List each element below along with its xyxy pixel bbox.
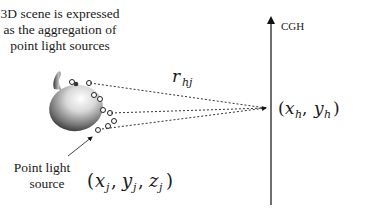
point-source-label-line-2: source	[29, 176, 64, 191]
svg-text:): )	[333, 98, 340, 118]
ray-line	[90, 83, 266, 108]
scene-caption: 3D scene is expressed as the aggregation…	[1, 6, 120, 53]
svg-text:x: x	[285, 98, 295, 118]
svg-text:y: y	[313, 98, 324, 118]
hologram-point-coords: ( x h , y h )	[278, 98, 340, 121]
distance-subscript: hj	[182, 76, 193, 89]
distance-label: r hj	[172, 66, 193, 89]
source-pointer-arrow	[68, 137, 92, 156]
svg-text:,: ,	[111, 170, 117, 191]
svg-text:z: z	[148, 170, 159, 191]
point-source-label-line-1: Point light	[14, 160, 71, 175]
svg-text:h: h	[324, 108, 331, 121]
teapot-object-icon	[45, 71, 106, 135]
point-source-label: Point light source	[14, 160, 71, 191]
point-source	[112, 119, 117, 124]
point-source-coords: ( x j , y j , z j )	[87, 170, 173, 194]
caption-line-2: as the aggregation of	[4, 22, 117, 37]
hologram-diagram: 3D scene is expressed as the aggregation…	[0, 0, 365, 212]
svg-text:,: ,	[138, 170, 144, 191]
svg-text:,: ,	[302, 98, 307, 118]
point-source	[96, 128, 101, 133]
point-source	[106, 124, 111, 129]
svg-text:x: x	[95, 170, 105, 191]
caption-line-3: point light sources	[10, 38, 110, 53]
ray-line	[102, 108, 266, 129]
point-source	[92, 93, 97, 98]
distance-symbol: r	[172, 66, 181, 86]
point-source	[70, 80, 75, 85]
caption-line-1: 3D scene is expressed	[1, 6, 120, 21]
svg-text:): )	[166, 170, 173, 191]
cgh-label: CGH	[281, 20, 304, 32]
point-source	[98, 97, 103, 102]
svg-text:(: (	[278, 98, 285, 118]
svg-text:(: (	[87, 170, 94, 191]
point-source	[101, 108, 106, 113]
svg-text:y: y	[121, 170, 133, 191]
